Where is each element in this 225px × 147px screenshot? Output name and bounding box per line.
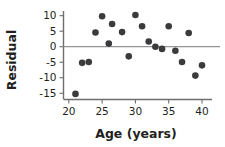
data-point — [79, 60, 86, 67]
data-point — [145, 38, 152, 45]
data-point — [105, 40, 112, 47]
data-point — [119, 29, 126, 36]
y-tick-label: 5 — [50, 25, 57, 37]
x-tick-label: 35 — [162, 105, 175, 117]
data-point — [139, 23, 146, 30]
x-tick-label: 20 — [62, 105, 75, 117]
y-tick-label: -10 — [39, 71, 56, 83]
data-point — [86, 59, 93, 66]
residual-scatter-chart: 1050-5-10-15 Residual 2025303540 Age (ye… — [0, 0, 225, 147]
y-tick-label: 10 — [43, 9, 56, 21]
y-tick-label: 0 — [50, 40, 57, 52]
residual-plot-figure: 1050-5-10-15 Residual 2025303540 Age (ye… — [0, 0, 225, 147]
data-point — [159, 46, 166, 53]
data-point — [185, 30, 192, 37]
data-point — [72, 91, 79, 98]
data-point — [165, 23, 172, 30]
x-tick-label: 25 — [95, 105, 108, 117]
data-point — [125, 53, 132, 60]
y-axis-label: Residual — [4, 30, 19, 90]
y-tick-label: -5 — [46, 56, 56, 68]
data-point — [179, 59, 186, 66]
x-axis-label: Age (years) — [95, 126, 177, 141]
data-point — [199, 62, 206, 69]
data-point — [132, 12, 139, 19]
data-point — [99, 13, 106, 20]
data-point — [192, 72, 199, 79]
data-point — [152, 43, 159, 50]
data-point — [109, 21, 116, 28]
data-point — [172, 47, 179, 54]
x-tick-label: 40 — [195, 105, 208, 117]
x-tick-label: 30 — [129, 105, 142, 117]
y-tick-label: -15 — [39, 87, 56, 99]
data-point — [92, 29, 99, 36]
